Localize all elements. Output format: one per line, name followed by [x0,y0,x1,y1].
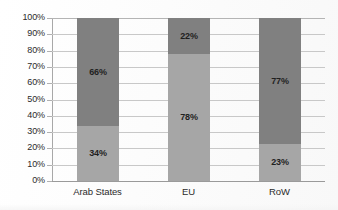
x-axis-category-labels: Arab StatesEURoW [52,186,325,204]
chart-figure: 0%10%20%30%40%50%60%70%80%90%100% 34%66%… [0,0,338,210]
y-axis-tick [47,148,52,149]
y-axis-tick [47,181,52,182]
bar-data-label: 34% [77,148,119,158]
bar-data-label: 23% [259,157,301,167]
y-axis-tick-label: 80% [1,46,45,55]
y-axis-tick [47,18,52,19]
y-axis-tick [47,132,52,133]
bar-segment-upper[interactable]: 77% [259,18,301,144]
y-axis-tick-label: 30% [1,127,45,136]
y-axis-tick-label: 10% [1,160,45,169]
x-axis-category-label: RoW [234,186,325,197]
y-axis-tick [47,116,52,117]
y-axis-tick-label: 60% [1,78,45,87]
y-axis-tick-label: 100% [1,13,45,22]
y-axis-tick [47,51,52,52]
y-axis-tick [47,34,52,35]
bar-segment-lower[interactable]: 78% [168,54,210,181]
y-axis-tick-label: 0% [1,176,45,185]
y-axis-tick-label: 50% [1,95,45,104]
y-axis-tick-label: 90% [1,29,45,38]
bar-segment-upper[interactable]: 66% [77,18,119,126]
x-axis-category-label: EU [143,186,234,197]
bar-segment-lower[interactable]: 34% [77,126,119,181]
plot-area: 34%66%78%22%23%77% [52,18,325,181]
bar-data-label: 77% [259,76,301,86]
bar-data-label: 78% [168,112,210,122]
y-axis-tick [47,67,52,68]
bar-data-label: 22% [168,31,210,41]
y-axis-tick-label: 40% [1,111,45,120]
x-axis-category-label: Arab States [52,186,143,197]
y-axis-tick-label: 20% [1,143,45,152]
bar-data-label: 66% [77,67,119,77]
y-axis-tick [47,83,52,84]
bar-segment-lower[interactable]: 23% [259,144,301,181]
y-axis-tick-labels: 0%10%20%30%40%50%60%70%80%90%100% [0,18,45,181]
y-axis-tick [47,165,52,166]
y-axis-tick-label: 70% [1,62,45,71]
scan-edge-shading [0,204,338,210]
gridline [52,181,325,182]
y-axis-tick [47,100,52,101]
bar-segment-upper[interactable]: 22% [168,18,210,54]
